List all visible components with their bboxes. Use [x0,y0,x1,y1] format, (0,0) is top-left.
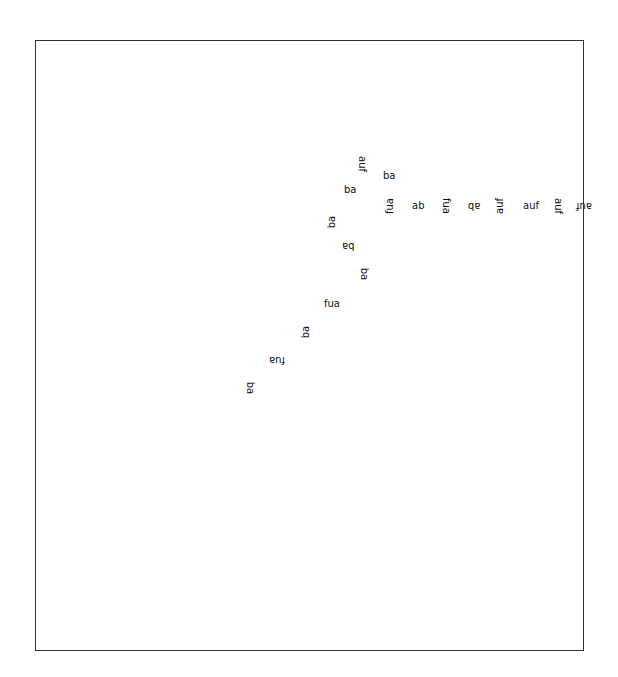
label-fua-3: fua [324,299,340,309]
label-ba-1: ba [383,171,395,181]
label-auf-2: auf [495,198,505,214]
label-ab-2: ab [468,201,480,211]
label-auf-4: auf [553,198,563,214]
label-ba-4: ba [342,241,354,251]
label-fua-2: fua [441,198,451,214]
label-auf-1: auf [357,156,367,172]
canvas-frame: auf ba ba fua ab fua ab auf auf auf auf … [35,40,584,651]
label-auf-5: auf [576,201,592,211]
label-auf-3: auf [523,201,539,211]
label-ba-3: ba [327,216,337,228]
label-fua-1: fua [385,198,395,214]
label-ab-1: ab [412,201,424,211]
label-ba-6: ba [301,326,311,338]
label-ba-7: ba [245,382,255,394]
label-ba-2: ba [344,185,356,195]
label-ba-5: ba [359,268,369,280]
label-fua-4: fua [269,355,285,365]
